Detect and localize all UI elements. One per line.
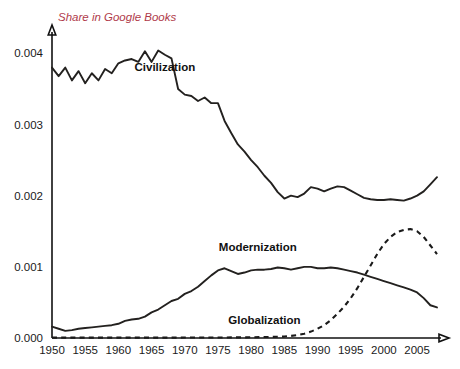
x-tick-label: 1985 — [272, 344, 298, 356]
x-tick-label: 1995 — [338, 344, 364, 356]
series-label-globalization: Globalization — [228, 314, 300, 326]
x-tick-label: 2000 — [371, 344, 397, 356]
y-tick-label: 0.002 — [14, 190, 43, 202]
x-tick-label: 1975 — [205, 344, 231, 356]
series-line-civilization — [52, 51, 437, 201]
x-tick-label: 1990 — [305, 344, 331, 356]
series-lines — [52, 51, 437, 338]
y-tick-label: 0.001 — [14, 261, 43, 273]
x-tick-label: 1960 — [106, 344, 132, 356]
chart-title: Share in Google Books — [58, 11, 177, 23]
series-labels: CivilizationModernizationGlobalization — [134, 61, 300, 326]
x-tick-labels: 1950195519601965197019751980198519901995… — [39, 344, 430, 356]
x-tick-label: 1980 — [238, 344, 264, 356]
line-chart: Share in Google Books 0.0000.0010.0020.0… — [0, 0, 460, 369]
x-tick-label: 1950 — [39, 344, 65, 356]
y-axis: 0.0000.0010.0020.0030.004 — [14, 25, 56, 344]
y-tick-label: 0.000 — [14, 332, 43, 344]
y-tick-labels: 0.0000.0010.0020.0030.004 — [14, 47, 43, 344]
y-tick-label: 0.004 — [14, 47, 43, 59]
x-tick-label: 1955 — [72, 344, 98, 356]
chart-container: Share in Google Books 0.0000.0010.0020.0… — [0, 0, 460, 369]
x-tick-label: 1965 — [139, 344, 165, 356]
x-tick-label: 1970 — [172, 344, 198, 356]
series-label-modernization: Modernization — [219, 241, 297, 253]
series-label-civilization: Civilization — [134, 61, 195, 73]
y-tick-label: 0.003 — [14, 119, 43, 131]
x-tick-label: 2005 — [404, 344, 430, 356]
